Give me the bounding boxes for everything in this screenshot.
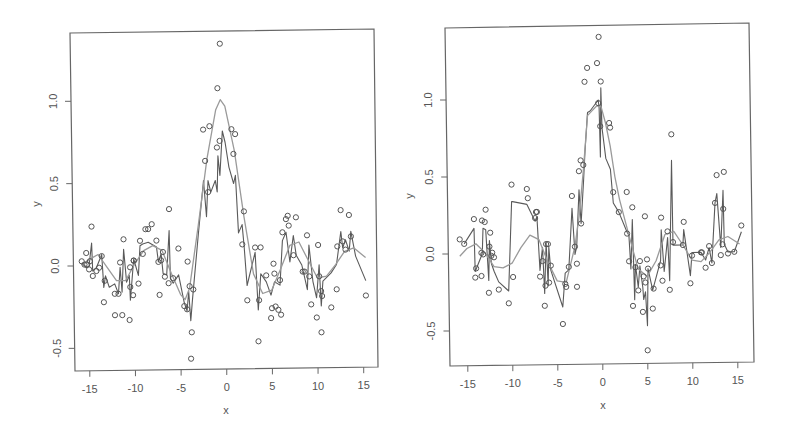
data-point xyxy=(137,238,142,243)
data-point xyxy=(87,267,92,272)
data-point xyxy=(457,237,462,242)
data-point xyxy=(329,305,334,310)
x-tick-label: -15 xyxy=(460,378,476,390)
axis-ticks: -15-10-5051015-0.50.00.51.0 xyxy=(422,92,744,389)
data-point xyxy=(149,222,154,227)
data-point xyxy=(650,306,655,311)
data-point xyxy=(669,132,674,137)
data-point xyxy=(574,284,579,289)
data-point xyxy=(547,280,552,285)
x-axis-label: x xyxy=(223,404,229,416)
data-point xyxy=(166,207,171,212)
data-point xyxy=(90,273,95,278)
data-point xyxy=(128,265,133,270)
data-point xyxy=(136,281,141,286)
data-point xyxy=(279,312,284,317)
data-point xyxy=(643,280,648,285)
data-point xyxy=(338,208,343,213)
rough-fit-line xyxy=(464,88,741,326)
data-point xyxy=(319,330,324,335)
data-point xyxy=(688,281,693,286)
y-tick-label: 0.5 xyxy=(48,176,60,191)
data-point xyxy=(276,307,281,312)
data-point xyxy=(272,271,277,276)
data-point xyxy=(258,245,263,250)
data-point xyxy=(659,215,664,220)
data-point xyxy=(286,223,291,228)
data-point xyxy=(667,287,672,292)
data-point xyxy=(473,275,478,280)
y-tick-label: -0.5 xyxy=(425,322,437,341)
data-point xyxy=(271,261,276,266)
data-point xyxy=(509,182,514,187)
data-point xyxy=(127,317,132,322)
data-point xyxy=(280,230,285,235)
data-point xyxy=(316,242,321,247)
data-point xyxy=(291,253,296,258)
y-tick-label: 0.5 xyxy=(423,169,435,184)
x-tick-label: 0 xyxy=(600,376,606,388)
x-tick-label: -5 xyxy=(553,377,563,389)
y-tick-label: 1.0 xyxy=(47,94,59,109)
x-tick-label: 15 xyxy=(732,374,744,386)
data-point xyxy=(256,339,261,344)
y-tick-label: -0.5 xyxy=(51,339,63,358)
data-point xyxy=(89,224,94,229)
data-point xyxy=(157,292,162,297)
x-tick-label: 5 xyxy=(645,375,651,387)
data-point xyxy=(660,278,665,283)
data-point xyxy=(264,273,269,278)
data-point xyxy=(154,238,159,243)
y-tick-label: 1.0 xyxy=(422,92,434,107)
data-point xyxy=(201,127,206,132)
data-point xyxy=(542,303,547,308)
data-point xyxy=(630,205,635,210)
data-point xyxy=(525,196,530,201)
data-point xyxy=(101,300,106,305)
data-point xyxy=(309,302,314,307)
y-axis-label: y xyxy=(30,201,42,207)
data-point xyxy=(112,313,117,318)
y-tick-label: 0.0 xyxy=(49,258,61,273)
plot-frame xyxy=(445,23,754,366)
data-point xyxy=(185,259,190,264)
data-point xyxy=(363,293,368,298)
data-point xyxy=(681,219,686,224)
x-tick-label: 15 xyxy=(358,379,370,391)
data-point xyxy=(538,274,543,279)
data-point xyxy=(189,330,194,335)
data-point xyxy=(598,79,603,84)
data-point xyxy=(293,215,298,220)
figure: -15-10-5051015-0.50.00.51.0 x y -15-10-5… xyxy=(0,0,794,439)
data-point xyxy=(334,287,339,292)
x-tick-label: 5 xyxy=(269,380,275,392)
data-point xyxy=(253,245,258,250)
data-point xyxy=(207,124,212,129)
data-point xyxy=(644,257,649,262)
data-point xyxy=(269,316,274,321)
data-point xyxy=(118,260,123,265)
x-tick-label: 0 xyxy=(224,381,230,393)
data-point xyxy=(496,287,501,292)
x-tick-label: 10 xyxy=(312,380,324,392)
right-plot: -15-10-5051015-0.50.00.51.0 x y xyxy=(403,23,754,411)
smooth-fit-line xyxy=(82,100,366,300)
data-point xyxy=(640,309,645,314)
axis-ticks: -15-10-5051015-0.50.00.51.0 xyxy=(47,94,370,395)
data-point xyxy=(84,250,89,255)
data-points xyxy=(79,41,368,361)
data-point xyxy=(346,212,351,217)
data-point xyxy=(510,274,515,279)
y-axis-label: y xyxy=(403,193,415,199)
data-point xyxy=(624,189,629,194)
data-point xyxy=(585,65,590,70)
data-point xyxy=(245,298,250,303)
data-point xyxy=(120,313,125,318)
data-point xyxy=(582,79,587,84)
data-point xyxy=(718,253,723,258)
data-point xyxy=(642,214,647,219)
data-point xyxy=(217,41,222,46)
plot-frame xyxy=(70,29,378,371)
x-tick-label: -15 xyxy=(82,383,98,395)
data-point xyxy=(714,173,719,178)
